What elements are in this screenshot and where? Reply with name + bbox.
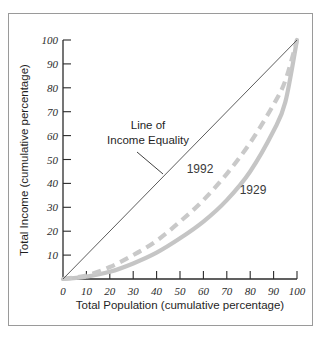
x-tick-label: 90 [268, 285, 280, 297]
x-tick-label: 0 [60, 285, 66, 297]
x-axis-title: Total Population (cumulative percentage) [76, 299, 285, 311]
y-tick-label: 10 [47, 249, 59, 261]
x-tick-label: 80 [245, 285, 257, 297]
annotation-line-of-income-equality-line2: Income Equality [107, 134, 189, 146]
y-tick-label: 30 [46, 201, 59, 213]
series-label-1992: 1992 [187, 162, 214, 176]
y-tick-label: 20 [47, 225, 59, 237]
x-tick-label: 50 [175, 285, 187, 297]
x-tick-label: 100 [289, 285, 306, 297]
y-tick-label: 100 [42, 34, 59, 46]
y-tick-label: 80 [47, 82, 59, 94]
x-axis-ticks [86, 271, 297, 279]
y-axis-tick-labels: 102030405060708090100 [42, 34, 59, 261]
y-tick-label: 50 [47, 154, 59, 166]
x-tick-label: 40 [151, 285, 163, 297]
y-tick-label: 70 [47, 106, 59, 118]
x-tick-label: 10 [81, 285, 93, 297]
annotation-line-of-income-equality-line1: Line of [131, 119, 166, 131]
y-axis-ticks [63, 40, 71, 255]
chart-figure: 102030405060708090100 010203040506070809… [0, 0, 325, 341]
x-tick-label: 20 [104, 285, 116, 297]
y-axis-title: Total Income (cumulative percentage) [18, 64, 30, 256]
x-tick-label: 70 [221, 285, 233, 297]
x-tick-label: 30 [127, 285, 140, 297]
lorenz-curve-plot: 102030405060708090100 010203040506070809… [0, 0, 325, 341]
series-label-1929: 1929 [240, 183, 267, 197]
y-tick-label: 90 [47, 58, 59, 70]
x-tick-label: 60 [198, 285, 210, 297]
annotation-leader-line [137, 152, 163, 174]
series-line-equality [63, 40, 297, 279]
y-tick-label: 60 [47, 130, 59, 142]
x-axis-tick-labels: 0102030405060708090100 [60, 285, 306, 297]
y-tick-label: 40 [47, 177, 59, 189]
